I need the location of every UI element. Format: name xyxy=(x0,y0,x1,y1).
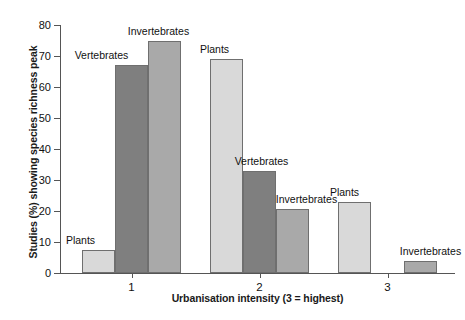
bar xyxy=(338,202,371,273)
y-tick-label: 50 xyxy=(39,110,51,126)
y-tick-mark xyxy=(54,149,60,150)
x-tick-mark xyxy=(388,273,389,278)
bar-label: Vertebrates xyxy=(222,155,302,168)
plot-area: 01020304050607080 PlantsVertebratesInver… xyxy=(60,25,455,273)
y-tick-label: 70 xyxy=(39,48,51,64)
bar-chart: Studies (%) showing species richness pea… xyxy=(0,0,465,320)
bar-label: Plants xyxy=(41,234,121,247)
bar-label: Vertebrates xyxy=(62,49,142,62)
y-tick-label: 40 xyxy=(39,141,51,157)
y-tick-label: 20 xyxy=(39,203,51,219)
y-tick-label: 0 xyxy=(45,265,51,281)
bar-label: Invertebrates xyxy=(391,245,465,258)
y-tick-mark xyxy=(54,180,60,181)
y-tick-mark xyxy=(54,87,60,88)
bar xyxy=(82,250,115,273)
y-tick-mark xyxy=(54,25,60,26)
y-tick-label: 80 xyxy=(39,17,51,33)
x-axis-line xyxy=(60,273,455,274)
y-tick-label: 60 xyxy=(39,79,51,95)
bar xyxy=(276,209,309,273)
y-tick-label: 30 xyxy=(39,172,51,188)
y-tick-mark xyxy=(54,118,60,119)
bar-label: Plants xyxy=(175,43,255,56)
x-tick-mark xyxy=(132,273,133,278)
bar xyxy=(243,171,276,273)
y-tick-mark xyxy=(54,273,60,274)
x-axis-title: Urbanisation intensity (3 = highest) xyxy=(60,292,455,304)
bar xyxy=(115,65,148,273)
bar-label: Plants xyxy=(305,186,385,199)
y-tick-mark xyxy=(54,211,60,212)
bar-label: Invertebrates xyxy=(119,25,199,38)
x-tick-mark xyxy=(260,273,261,278)
y-tick-mark xyxy=(54,56,60,57)
bar xyxy=(404,261,437,273)
bar xyxy=(148,41,181,274)
